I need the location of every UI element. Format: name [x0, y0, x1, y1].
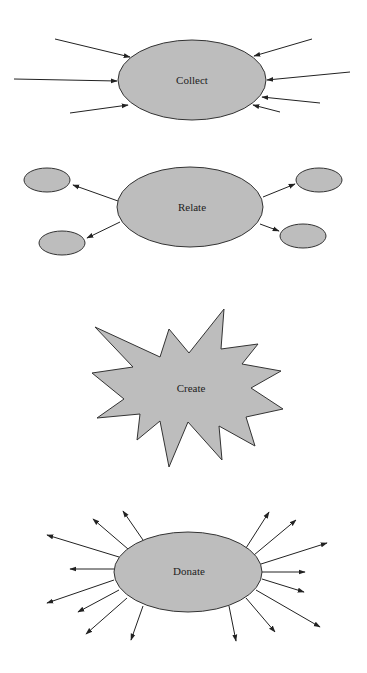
diagram-canvas: Collect Relate Create D: [0, 0, 367, 673]
outbound-arrow: [229, 606, 236, 641]
create-label: Create: [177, 382, 206, 394]
relate-stage: Relate: [24, 167, 342, 255]
outbound-arrow: [47, 535, 119, 557]
outbound-arrow: [131, 606, 143, 640]
collect-label: Collect: [176, 74, 208, 86]
inbound-arrow: [253, 105, 280, 112]
outbound-arrow: [86, 598, 127, 634]
related-node: [39, 231, 85, 255]
outbound-arrow: [93, 519, 128, 549]
relate-label: Relate: [178, 201, 206, 213]
relation-arrow: [260, 224, 279, 231]
inbound-arrow: [14, 79, 117, 81]
outbound-arrow: [261, 543, 327, 564]
outbound-arrow: [47, 580, 114, 603]
outbound-arrow: [246, 598, 275, 632]
inbound-arrow: [254, 39, 312, 56]
outbound-arrow: [123, 511, 143, 540]
inbound-arrow: [70, 105, 128, 113]
relation-arrow: [263, 184, 295, 197]
outbound-arrow: [262, 579, 304, 592]
related-node: [296, 168, 342, 192]
relation-arrow: [73, 185, 118, 201]
donate-label: Donate: [173, 565, 205, 577]
inbound-arrow: [55, 39, 130, 57]
donate-stage: Donate: [47, 511, 327, 641]
inbound-arrow: [262, 97, 320, 103]
outbound-arrow: [78, 590, 119, 612]
related-node: [280, 224, 326, 248]
inbound-arrow: [267, 72, 350, 80]
relation-arrow: [87, 222, 120, 238]
related-node: [24, 168, 70, 192]
collect-stage: Collect: [14, 39, 350, 120]
outbound-arrow: [246, 512, 269, 548]
create-stage: Create: [92, 309, 283, 467]
